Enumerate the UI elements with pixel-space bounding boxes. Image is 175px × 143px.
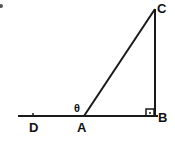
label-C: C — [157, 1, 167, 16]
right-angle-dot — [149, 112, 151, 114]
label-B: B — [158, 110, 167, 125]
label-theta: θ — [74, 102, 80, 114]
hypotenuse-AC — [84, 9, 155, 116]
label-A: A — [77, 120, 87, 135]
corner-dot — [0, 4, 3, 8]
triangle-diagram: C B A D θ — [0, 0, 175, 143]
label-D: D — [29, 120, 38, 135]
